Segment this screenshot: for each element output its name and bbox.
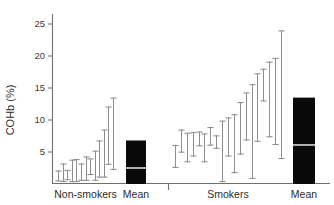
range-bar: [64, 170, 70, 180]
range-bar: [278, 30, 284, 159]
range-bar: [110, 98, 116, 170]
data-series-layer: [55, 30, 315, 184]
mean-box: [126, 140, 146, 184]
range-bar: [172, 145, 178, 168]
range-bar: [87, 158, 93, 175]
range-bar: [55, 171, 61, 182]
range-bar: [190, 132, 196, 156]
y-axis-label: COHb (%): [4, 85, 16, 136]
range-bar: [213, 135, 219, 148]
range-bar: [225, 117, 231, 156]
y-tick-label: 25: [34, 18, 45, 29]
y-tick-label: 10: [34, 114, 45, 125]
range-bar: [184, 133, 190, 162]
range-bar: [219, 121, 225, 182]
mean-box-group: [293, 98, 315, 184]
range-bar: [272, 58, 278, 145]
range-bar: [237, 102, 243, 154]
category-label: Mean: [123, 188, 149, 200]
range-bar: [105, 107, 111, 165]
range-bar: [78, 164, 84, 181]
range-bar: [260, 69, 266, 102]
y-axis-label-group: COHb (%): [4, 85, 16, 136]
range-bar: [83, 156, 89, 180]
category-labels: Non-smokersMeanSmokersMean: [54, 188, 317, 200]
mean-box-group: [126, 140, 146, 184]
chart-figure: COHb (%) 510152025 Non-smokersMeanSmoker…: [0, 0, 334, 205]
y-axis-ticks: 510152025: [34, 18, 52, 157]
range-bar: [73, 159, 79, 182]
range-bar: [231, 114, 237, 173]
range-bar: [96, 140, 102, 177]
range-bar: [178, 130, 184, 153]
category-label: Smokers: [207, 188, 248, 200]
y-tick-label: 15: [34, 82, 45, 93]
range-bar: [101, 130, 107, 178]
cohb-range-chart: COHb (%) 510152025 Non-smokersMeanSmoker…: [0, 0, 334, 205]
category-label: Non-smokers: [54, 188, 116, 200]
axis-lines: [53, 14, 331, 190]
range-bar: [254, 73, 260, 141]
range-bar: [92, 151, 98, 181]
range-bar: [249, 84, 255, 179]
range-bar: [266, 62, 272, 138]
range-bar: [243, 92, 249, 140]
y-tick-label: 5: [40, 146, 45, 157]
range-bar: [201, 133, 207, 162]
y-tick-label: 20: [34, 50, 45, 61]
category-label: Mean: [291, 188, 317, 200]
range-bar: [207, 127, 213, 146]
mean-box: [293, 98, 315, 184]
